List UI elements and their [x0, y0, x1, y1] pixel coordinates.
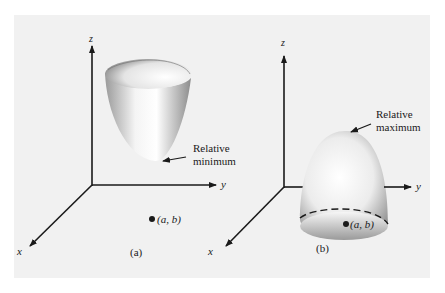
x-axis-label-b: x	[207, 245, 213, 257]
y-axis-label-a: y	[220, 178, 226, 190]
panel-b: y z x Relative maximum (a, b) (b)	[207, 37, 421, 257]
point-ab-label-a: (a, b)	[157, 213, 181, 226]
annotation-line1-b: Relative	[376, 108, 413, 120]
point-ab-label-b: (a, b)	[350, 218, 374, 231]
point-ab-dot-b	[343, 221, 349, 227]
caption-b: (b)	[316, 242, 329, 255]
annotation-arrow-b	[351, 124, 371, 132]
annotation-line2-b: maximum	[376, 121, 421, 133]
z-axis-label-a: z	[88, 33, 93, 44]
x-axis-a	[30, 185, 92, 246]
annotation-line1-a: Relative	[193, 142, 230, 154]
x-axis-label-a: x	[16, 245, 22, 257]
y-axis-label-b: y	[415, 180, 421, 192]
x-axis-b	[226, 187, 284, 246]
panel-a: z y x Relative minimum (a, b) (a)	[16, 33, 236, 259]
caption-a: (a)	[130, 246, 143, 259]
bowl-rim	[105, 59, 191, 89]
annotation-arrow-a	[163, 157, 186, 161]
z-axis-label-b: z	[280, 37, 285, 48]
annotation-line2-a: minimum	[193, 155, 236, 167]
extrema-figure: z y x Relative minimum (a, b) (a) y z x …	[0, 0, 445, 293]
point-ab-dot-a	[149, 216, 155, 222]
